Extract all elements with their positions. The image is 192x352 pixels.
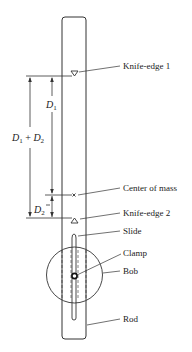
leader-bob: [103, 271, 120, 273]
leader-center-of-mass: [78, 188, 120, 195]
knife-edge-1-icon: [71, 71, 78, 76]
center-of-mass-marker: [73, 194, 76, 197]
label-knife-edge-2: Knife-edge 2: [123, 208, 170, 218]
label-center-of-mass: Center of mass: [123, 183, 177, 193]
label-knife-edge-1: Knife-edge 1: [123, 61, 170, 71]
d1-dimension: [50, 77, 54, 194]
d2-dimension: [50, 196, 54, 217]
leader-knife-edge-1: [79, 66, 120, 72]
label-slide: Slide: [123, 226, 142, 236]
clamp-icon: [72, 273, 77, 278]
rod: [62, 17, 86, 339]
label-d1-plus-d2: D1 + D2: [11, 132, 45, 145]
leader-rod: [87, 319, 120, 325]
knife-edge-2-icon: [71, 218, 78, 223]
label-d1: D1: [45, 99, 57, 112]
d1-plus-d2-dimension: [28, 77, 32, 217]
label-bob: Bob: [123, 266, 139, 276]
label-rod: Rod: [123, 314, 139, 324]
leader-slide: [78, 231, 120, 236]
label-d2: D2: [33, 204, 45, 217]
label-clamp: Clamp: [123, 248, 147, 258]
pendulum-diagram: D1 D1 + D2 D2 Knife-edge 1 Center of mas…: [0, 0, 192, 352]
